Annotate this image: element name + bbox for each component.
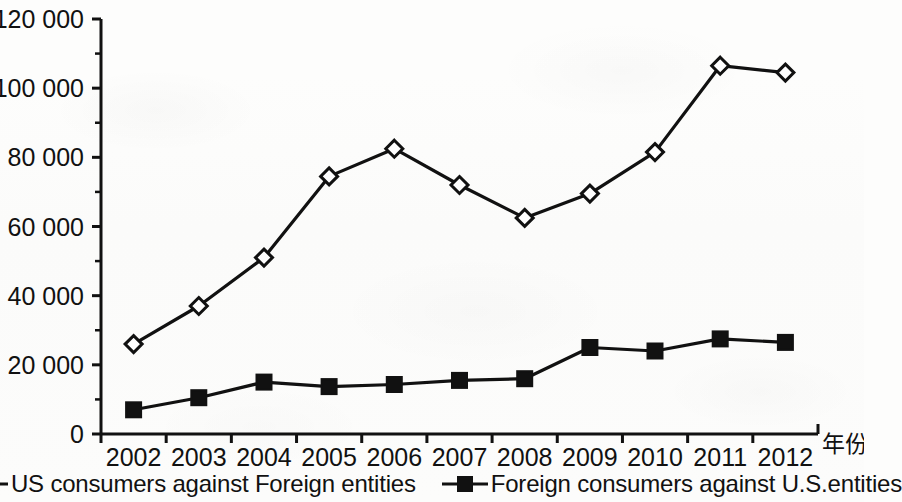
y-axis-tick-label: 20 000 [8, 351, 84, 379]
legend-entry-us-consumers[interactable]: US consumers against Foreign entities [0, 470, 416, 498]
y-axis-tick-label: 100 000 [0, 74, 84, 102]
data-point-open-diamond[interactable] [581, 185, 598, 202]
data-point-filled-square[interactable] [191, 390, 206, 405]
y-axis-tick-label: 60 000 [8, 213, 84, 241]
data-point-open-diamond[interactable] [386, 140, 403, 157]
legend-entry-foreign-consumers[interactable]: Foreign consumers against U.S.entities [442, 470, 902, 498]
y-axis-tick-label: 40 000 [8, 282, 84, 310]
data-point-filled-square[interactable] [322, 379, 337, 394]
data-point-open-diamond[interactable] [125, 336, 142, 353]
data-point-filled-square[interactable] [257, 375, 272, 390]
data-point-filled-square[interactable] [582, 340, 597, 355]
x-axis-title: 年份 [822, 431, 864, 457]
legend-label-us-consumers: US consumers against Foreign entities [11, 470, 416, 498]
x-axis: 2002200320042005200620072008200920102011… [101, 424, 864, 471]
data-series-layer [125, 57, 794, 417]
y-axis: 020 00040 00060 00080 000100 000120 000 [0, 5, 101, 448]
y-axis-tick-label: 120 000 [0, 5, 84, 33]
data-point-open-diamond[interactable] [516, 209, 533, 226]
data-point-filled-square[interactable] [126, 402, 141, 417]
series-line [134, 66, 786, 344]
data-series-1 [125, 57, 794, 352]
filled-square-marker-icon [442, 473, 488, 495]
y-axis-tick-label: 0 [70, 420, 84, 448]
data-point-filled-square[interactable] [778, 335, 793, 350]
legend-label-foreign-consumers: Foreign consumers against U.S.entities [491, 470, 902, 498]
data-point-filled-square[interactable] [452, 373, 467, 388]
data-point-filled-square[interactable] [387, 377, 402, 392]
data-point-open-diamond[interactable] [777, 64, 794, 81]
data-point-filled-square[interactable] [713, 331, 728, 346]
open-diamond-marker-icon [0, 473, 8, 495]
data-series-2 [126, 331, 793, 417]
y-axis-tick-labels: 020 00040 00060 00080 000100 000120 000 [0, 5, 84, 448]
y-axis-tick-label: 80 000 [8, 143, 84, 171]
data-point-filled-square[interactable] [648, 344, 663, 359]
chart-legend: US consumers against Foreign entities Fo… [0, 466, 864, 502]
data-point-open-diamond[interactable] [451, 177, 468, 194]
data-point-filled-square[interactable] [517, 371, 532, 386]
